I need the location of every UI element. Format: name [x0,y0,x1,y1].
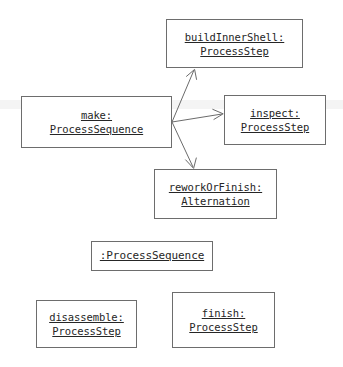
object-diagram-canvas: buildInnerShell: ProcessStep make: Proce… [0,0,343,367]
object-node-buildInnerShell[interactable]: buildInnerShell: ProcessStep [166,19,303,68]
object-node-disassemble[interactable]: disassemble: ProcessStep [36,300,137,348]
object-instance-label: :ProcessSequence [100,249,204,263]
object-class-label: ProcessStep [189,320,257,334]
object-instance-label: make: [81,108,112,122]
link-line [172,122,193,167]
object-node-finish[interactable]: finish: ProcessStep [172,292,275,348]
link-make-to-buildInnerShell [172,69,197,122]
object-instance-label: reworkOrFinish: [169,180,262,194]
link-line [172,70,194,122]
object-instance-label: disassemble: [49,310,124,324]
link-line [172,114,222,122]
arrowhead-icon [186,69,196,79]
object-class-label: ProcessStep [52,324,120,338]
link-make-to-inspect [172,109,223,122]
object-node-inspect[interactable]: inspect: ProcessStep [224,95,326,145]
object-node-reworkOrFinish[interactable]: reworkOrFinish: Alternation [154,169,277,219]
link-make-to-reworkOrFinish [172,122,196,168]
object-instance-label: inspect: [250,106,300,120]
object-instance-label: finish: [202,306,246,320]
object-node-anonymous-process-sequence[interactable]: :ProcessSequence [91,241,213,271]
object-node-make[interactable]: make: ProcessSequence [21,96,172,148]
object-class-label: ProcessStep [241,120,309,134]
object-class-label: ProcessSequence [50,122,143,136]
object-instance-label: buildInnerShell: [185,30,285,44]
object-class-label: Alternation [181,194,249,208]
object-class-label: ProcessStep [200,44,268,58]
